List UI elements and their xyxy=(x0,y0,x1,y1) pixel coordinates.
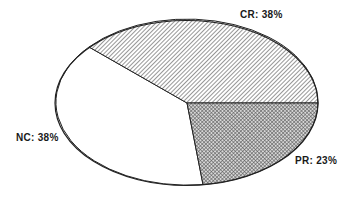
pie-chart xyxy=(0,0,349,197)
label-cr: CR: 38% xyxy=(240,9,283,20)
label-nc: NC: 38% xyxy=(16,132,59,143)
slice-pr xyxy=(187,103,318,185)
label-pr: PR: 23% xyxy=(295,155,337,166)
